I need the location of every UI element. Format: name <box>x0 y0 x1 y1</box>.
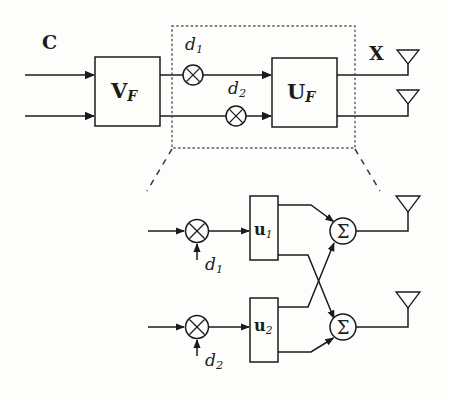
figure-canvas: C X VF UF d1 d2 d1 d2 u1 u2 Σ Σ <box>0 0 449 400</box>
stream-label-d1-detail: d1 <box>205 256 223 275</box>
sum-2-label: Σ <box>331 317 355 338</box>
uf-out-2 <box>337 104 408 116</box>
output-label-x: X <box>369 44 384 63</box>
d2-subscript-top: 2 <box>239 87 246 100</box>
sum-1-label: Σ <box>331 221 355 242</box>
vf-subscript: F <box>127 88 137 104</box>
sum-1-out <box>356 212 408 231</box>
uf-block-label: UF <box>287 81 315 105</box>
d1-symbol-top: d <box>185 34 196 54</box>
d1-subscript-detail: 1 <box>216 263 223 276</box>
antenna-detail-1 <box>396 196 420 212</box>
zoom-connector-left <box>147 149 172 191</box>
vf-symbol: V <box>111 78 127 103</box>
uf-out-1 <box>337 64 408 75</box>
u1-block-label: u1 <box>254 222 272 240</box>
uf-symbol: U <box>287 79 305 104</box>
antenna-top-2 <box>397 90 419 104</box>
u2-subscript: 2 <box>266 324 273 336</box>
antenna-detail-2 <box>396 292 420 308</box>
stream-label-d2-detail: d2 <box>205 352 223 371</box>
u2-symbol: u <box>254 316 266 335</box>
input-label-c: C <box>42 33 57 52</box>
u2-out-bottom <box>278 338 334 352</box>
d1-subscript-top: 1 <box>196 43 203 56</box>
stream-label-d2-top: d2 <box>228 80 246 99</box>
vf-block-label: VF <box>111 80 137 104</box>
u1-symbol: u <box>254 220 266 239</box>
sum-2-out <box>356 308 408 327</box>
d2-symbol-top: d <box>228 78 239 98</box>
zoom-connector-right <box>355 149 380 191</box>
stream-label-d1-top: d1 <box>185 36 203 55</box>
u2-block-label: u2 <box>254 318 272 336</box>
uf-subscript: F <box>305 89 315 105</box>
d2-subscript-detail: 2 <box>216 359 223 372</box>
d1-symbol-detail: d <box>205 254 216 274</box>
d2-symbol-detail: d <box>205 350 216 370</box>
u1-subscript: 1 <box>266 228 273 240</box>
u1-out-top <box>278 205 334 222</box>
antenna-top-1 <box>397 50 419 64</box>
